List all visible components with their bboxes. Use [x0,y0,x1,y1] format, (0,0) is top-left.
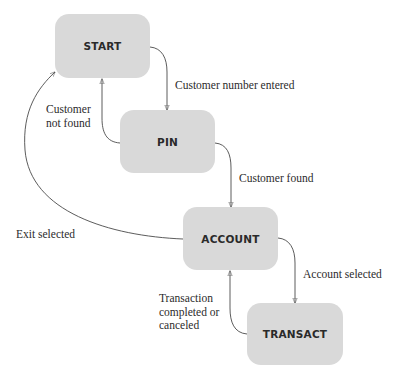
arrow-transact-to-account [230,271,247,334]
label-line: not found [46,117,91,131]
label-line: Customer [46,103,91,117]
state-account-label: ACCOUNT [201,233,259,245]
label-transaction-completed: Transaction completed or canceled [159,292,219,333]
state-pin: PIN [120,110,215,173]
label-line: completed or [159,306,219,320]
state-pin-label: PIN [157,136,178,148]
state-diagram: START PIN ACCOUNT TRANSACT Customer numb… [0,0,395,380]
state-account: ACCOUNT [183,207,278,270]
arrow-pin-to-account [215,143,231,207]
state-start: START [55,14,150,78]
label-customer-number-entered: Customer number entered [175,79,294,93]
label-customer-not-found: Customer not found [46,103,91,130]
label-line: canceled [159,319,219,333]
label-line: Transaction [159,292,219,306]
state-transact: TRANSACT [247,303,343,365]
label-customer-found: Customer found [239,172,313,186]
arrow-account-to-transact [278,238,295,303]
arrow-start-to-pin [150,47,167,110]
label-account-selected: Account selected [303,268,382,282]
label-exit-selected: Exit selected [16,228,75,242]
state-transact-label: TRANSACT [263,328,327,340]
arrow-pin-to-start [102,79,120,143]
state-start-label: START [84,40,122,52]
